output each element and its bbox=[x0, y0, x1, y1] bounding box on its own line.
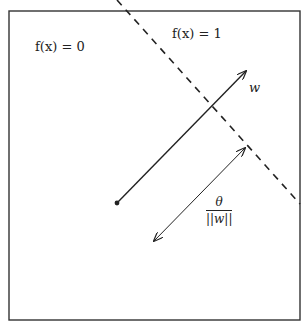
region-label-one: f(x) = 1 bbox=[172, 26, 222, 41]
fraction-numerator: θ bbox=[206, 195, 232, 210]
weight-vector-arrow bbox=[117, 71, 246, 203]
weight-vector-label: w bbox=[249, 80, 260, 95]
origin-dot bbox=[115, 201, 120, 206]
distance-fraction: θ ||w|| bbox=[206, 195, 232, 226]
fraction-denominator: ||w|| bbox=[206, 210, 232, 226]
region-label-zero: f(x) = 0 bbox=[35, 39, 85, 54]
